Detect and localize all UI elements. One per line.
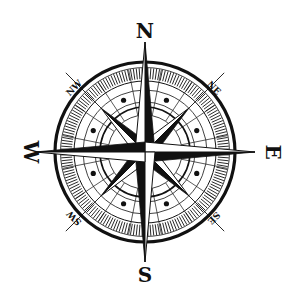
cardinal-label-s: S — [138, 263, 152, 287]
intercardinal-label-se: SE — [206, 210, 223, 227]
intercardinal-label-sw: SW — [64, 208, 83, 227]
compass-rose: N S E W NE SE SW NW — [0, 0, 288, 301]
cardinal-label-n: N — [136, 19, 154, 43]
intercardinal-label-ne: NE — [205, 79, 223, 97]
cardinal-label-e: E — [261, 144, 285, 159]
cardinal-label-w: W — [19, 140, 43, 164]
